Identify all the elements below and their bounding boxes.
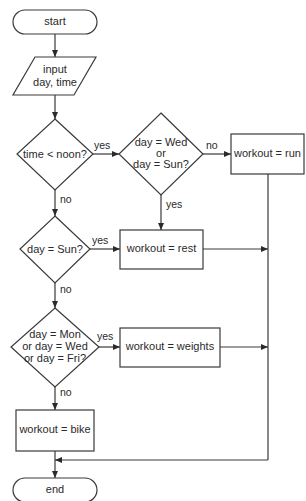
edge-label-sun-yes: yes xyxy=(92,234,108,246)
node-decision-mwf: day = Mon or day = Wed or day = Fri? xyxy=(11,308,99,387)
node-decision-wed-sun: day = Wed or day = Sun? xyxy=(119,113,203,195)
node-start: start xyxy=(13,10,97,34)
node-process-weights: workout = weights xyxy=(120,328,220,367)
arrowhead-icon xyxy=(52,209,58,216)
node-decision-noon: time < noon? xyxy=(17,119,93,190)
node-decision-sun: day = Sun? xyxy=(20,216,90,283)
node-decision-mwf-line3: or day = Fri? xyxy=(24,352,86,364)
arrowhead-icon xyxy=(52,471,58,478)
flowchart-canvas: yes no no yes yes no yes no start input … xyxy=(0,0,306,501)
node-input: input day, time xyxy=(13,57,96,95)
node-process-run-label: workout = run xyxy=(233,147,301,159)
edge-label-wedsun-yes: yes xyxy=(166,198,182,210)
edge-label-noon-no: no xyxy=(60,193,72,205)
arrowhead-icon xyxy=(113,344,120,350)
arrowhead-icon xyxy=(52,301,58,308)
node-end: end xyxy=(13,478,97,501)
node-process-rest-label: workout = rest xyxy=(126,242,196,254)
node-process-bike-label: workout = bike xyxy=(18,423,90,435)
arrowhead-icon xyxy=(261,344,268,350)
arrowhead-icon xyxy=(112,151,119,157)
node-start-label: start xyxy=(44,15,65,27)
node-input-line1: input xyxy=(43,63,67,75)
edge-label-mwf-yes: yes xyxy=(97,330,113,342)
node-decision-noon-label: time < noon? xyxy=(23,148,87,160)
arrowhead-icon xyxy=(52,50,58,57)
arrowhead-icon xyxy=(52,403,58,410)
arrowhead-icon xyxy=(113,246,120,252)
node-end-label: end xyxy=(46,483,64,495)
edge-label-sun-no: no xyxy=(60,283,72,295)
node-input-line2: day, time xyxy=(33,76,77,88)
node-decision-mwf-line2: or day = Wed xyxy=(22,340,88,352)
edge-label-mwf-no: no xyxy=(60,386,72,398)
edge-label-wedsun-no: no xyxy=(206,139,218,151)
node-decision-wed-sun-line3: day = Sun? xyxy=(133,158,189,170)
arrowhead-icon xyxy=(224,151,231,157)
node-decision-mwf-line1: day = Mon xyxy=(29,328,81,340)
node-process-weights-label: workout = weights xyxy=(125,340,215,352)
node-process-rest: workout = rest xyxy=(120,230,203,269)
edge-label-noon-yes: yes xyxy=(94,139,110,151)
arrowhead-icon xyxy=(55,457,62,463)
arrowhead-icon xyxy=(261,246,268,252)
node-process-run: workout = run xyxy=(231,134,304,174)
arrowhead-icon xyxy=(158,223,164,230)
node-decision-sun-label: day = Sun? xyxy=(27,243,83,255)
node-process-bike: workout = bike xyxy=(16,410,94,451)
arrowhead-icon xyxy=(52,112,58,119)
